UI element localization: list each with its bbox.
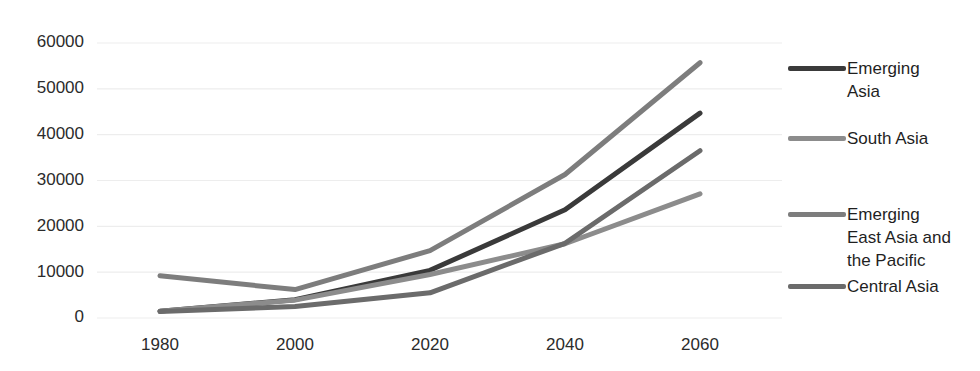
- legend-entry[interactable]: Emerging Asia: [788, 57, 980, 103]
- data-series-lines: [160, 63, 700, 312]
- legend-label: Emerging Asia: [846, 57, 975, 103]
- y-axis-tick-label: 40000: [37, 124, 84, 143]
- x-axis-tick-label: 2060: [681, 335, 719, 354]
- line-chart: 0100002000030000400005000060000 19802000…: [0, 0, 980, 371]
- plot-area: 0100002000030000400005000060000 19802000…: [0, 0, 790, 371]
- legend-swatch-line-icon: [788, 284, 846, 289]
- y-axis-tick-label: 20000: [37, 216, 84, 235]
- legend-swatch-line-icon: [788, 212, 846, 217]
- legend-entry[interactable]: Central Asia: [788, 275, 980, 298]
- x-axis-tick-label: 2000: [276, 335, 314, 354]
- y-axis-tick-label: 10000: [37, 262, 84, 281]
- x-axis-tick-labels: 19802000202020402060: [141, 335, 719, 354]
- y-axis-tick-label: 30000: [37, 170, 84, 189]
- chart-legend: Emerging AsiaSouth AsiaEmerging East Asi…: [788, 0, 980, 371]
- legend-entry[interactable]: Emerging East Asia and the Pacific: [788, 203, 980, 272]
- y-axis-tick-label: 0: [75, 307, 84, 326]
- y-axis-tick-label: 50000: [37, 78, 84, 97]
- legend-swatch-line-icon: [788, 136, 846, 141]
- series-line: [160, 63, 700, 290]
- series-line: [160, 113, 700, 311]
- gridlines: [97, 43, 782, 318]
- x-axis-tick-label: 2040: [546, 335, 584, 354]
- legend-entry[interactable]: South Asia: [788, 127, 980, 150]
- x-axis-tick-label: 2020: [411, 335, 449, 354]
- y-axis-tick-labels: 0100002000030000400005000060000: [37, 32, 84, 326]
- series-line: [160, 151, 700, 312]
- legend-label: South Asia: [846, 127, 975, 150]
- legend-label: Central Asia: [846, 275, 975, 298]
- y-axis-tick-label: 60000: [37, 32, 84, 51]
- x-axis-tick-label: 1980: [141, 335, 179, 354]
- legend-label: Emerging East Asia and the Pacific: [846, 203, 975, 272]
- legend-swatch-line-icon: [788, 66, 846, 71]
- chart-svg: 0100002000030000400005000060000 19802000…: [0, 0, 790, 371]
